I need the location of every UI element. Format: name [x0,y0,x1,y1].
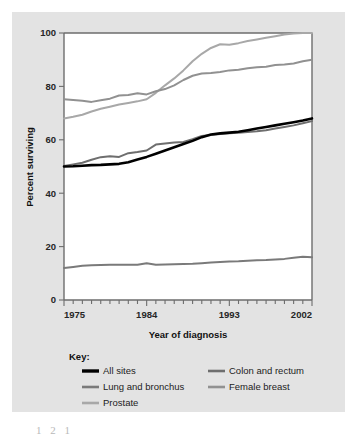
y-axis-title: Percent surviving [24,127,35,207]
legend-label-colon-and-rectum: Colon and rectum [229,365,304,376]
x-tick-label-2002: 2002 [291,309,312,320]
x-tick-label-1993: 1993 [219,309,240,320]
x-axis-title: Year of diagnosis [149,329,228,340]
legend-label-female-breast: Female breast [229,381,290,392]
legend-label-prostate: Prostate [103,397,138,408]
x-tick-label-1975: 1975 [64,309,86,320]
legend-item-female-breast: Female breast [208,381,290,392]
figure-panel: 020406080100 1975198419932002 Percent su… [12,12,345,412]
chart-legend: All sitesColon and rectumLung and bronch… [82,365,304,408]
legend-label-lung-and-bronchus: Lung and bronchus [103,381,185,392]
x-tick-label-1984: 1984 [136,309,158,320]
legend-title: Key: [69,351,90,362]
y-tick-label-80: 80 [45,81,56,92]
legend-item-prostate: Prostate [82,397,138,408]
legend-item-all-sites: All sites [82,365,136,376]
legend-item-lung-and-bronchus: Lung and bronchus [82,381,185,392]
x-axis-tick-labels: 1975198419932002 [64,309,312,320]
y-tick-label-20: 20 [45,241,56,252]
legend-item-colon-and-rectum: Colon and rectum [208,365,304,376]
x-axis-minor-ticks [64,300,312,306]
legend-label-all-sites: All sites [103,365,136,376]
page-artifact-text: 1 2 1 [36,424,156,438]
y-axis-tick-labels: 020406080100 [40,27,56,305]
y-tick-label-40: 40 [45,188,56,199]
y-tick-label-60: 60 [45,134,56,145]
y-tick-label-0: 0 [51,294,56,305]
survival-line-chart: 020406080100 1975198419932002 Percent su… [12,12,345,412]
y-tick-label-100: 100 [40,27,56,38]
